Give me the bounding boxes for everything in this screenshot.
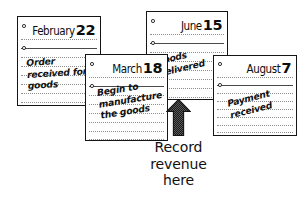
month-label: February: [32, 24, 75, 38]
hole-punch-icon: [218, 62, 222, 66]
note-line: goods: [27, 76, 88, 91]
handwritten-note-february: Order received for goods: [26, 53, 88, 91]
month-label: August: [247, 62, 281, 76]
up-arrow-icon: [166, 99, 191, 136]
caption-record-revenue-here: Record revenue here: [131, 139, 226, 189]
illustration-canvas: February22 Order received for goods June…: [0, 0, 307, 204]
hole-punch-icon: [22, 24, 26, 28]
hole-punch-icon: [90, 84, 94, 88]
caption-line: here: [131, 172, 226, 189]
caption-line: Record: [131, 139, 226, 156]
page-date-header-august: August7: [247, 60, 291, 76]
handwritten-note-march: Begin to manufacture the goods: [96, 77, 165, 121]
page-date-header-february: February22: [32, 22, 95, 38]
page-date-header-june: June15: [181, 17, 222, 33]
month-label: June: [181, 19, 202, 33]
calendar-page-march[interactable]: March18 Begin to manufacture the goods: [85, 54, 168, 141]
day-number: 7: [281, 60, 291, 76]
hole-punch-icon: [22, 46, 26, 50]
day-number: 22: [76, 22, 95, 38]
handwritten-note-august: Payment received: [226, 88, 274, 121]
page-date-header-march: March18: [112, 60, 162, 76]
month-label: March: [112, 62, 142, 76]
day-number: 18: [143, 60, 162, 76]
caption-line: revenue: [131, 156, 226, 173]
calendar-page-august[interactable]: August7 Payment received: [213, 55, 297, 136]
hole-punch-icon: [151, 19, 155, 23]
hole-punch-icon: [151, 41, 155, 45]
hole-punch-icon: [218, 83, 222, 87]
hole-punch-icon: [90, 62, 94, 66]
day-number: 15: [203, 17, 222, 33]
